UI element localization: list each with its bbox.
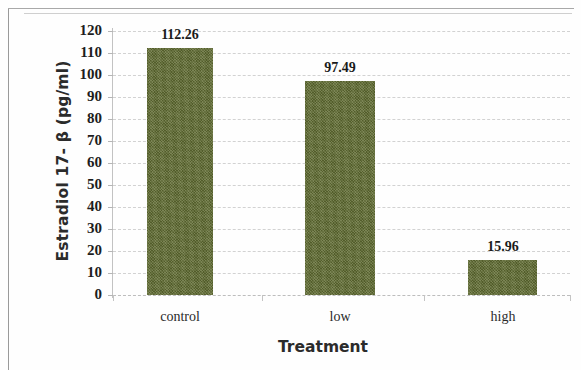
y-tick-label: 80 (52, 110, 102, 127)
page-border-top (8, 8, 574, 9)
bar-low (305, 81, 375, 295)
y-tick-label: 10 (52, 264, 102, 281)
x-tick-label-high: high (443, 309, 563, 325)
chart-figure: Estradiol 17- β (pg/ml) 0102030405060708… (0, 0, 581, 370)
x-tick-label-control: control (120, 309, 240, 325)
y-tick-label: 100 (52, 66, 102, 83)
data-label-high: 15.96 (443, 239, 563, 255)
gridline (113, 295, 570, 296)
x-axis-title: Treatment (113, 338, 533, 356)
x-tick-mark (113, 295, 114, 301)
bar-high (468, 260, 537, 295)
x-tick-label-low: low (280, 309, 400, 325)
y-tick-label: 50 (52, 176, 102, 193)
y-tick-label: 30 (52, 220, 102, 237)
y-tick-label: 60 (52, 154, 102, 171)
page-border-left (8, 8, 9, 370)
x-tick-mark (424, 295, 425, 301)
y-tick-label: 120 (52, 22, 102, 39)
y-tick-label: 40 (52, 198, 102, 215)
y-tick-label: 0 (52, 286, 102, 303)
data-label-control: 112.26 (120, 27, 240, 43)
y-tick-label: 90 (52, 88, 102, 105)
x-tick-mark (262, 295, 263, 301)
y-tick-label: 70 (52, 132, 102, 149)
bar-control (147, 48, 213, 295)
y-tick-label: 20 (52, 242, 102, 259)
x-tick-mark (570, 295, 571, 301)
data-label-low: 97.49 (280, 60, 400, 76)
page-border-top-inner (24, 13, 572, 14)
y-tick-label: 110 (52, 44, 102, 61)
